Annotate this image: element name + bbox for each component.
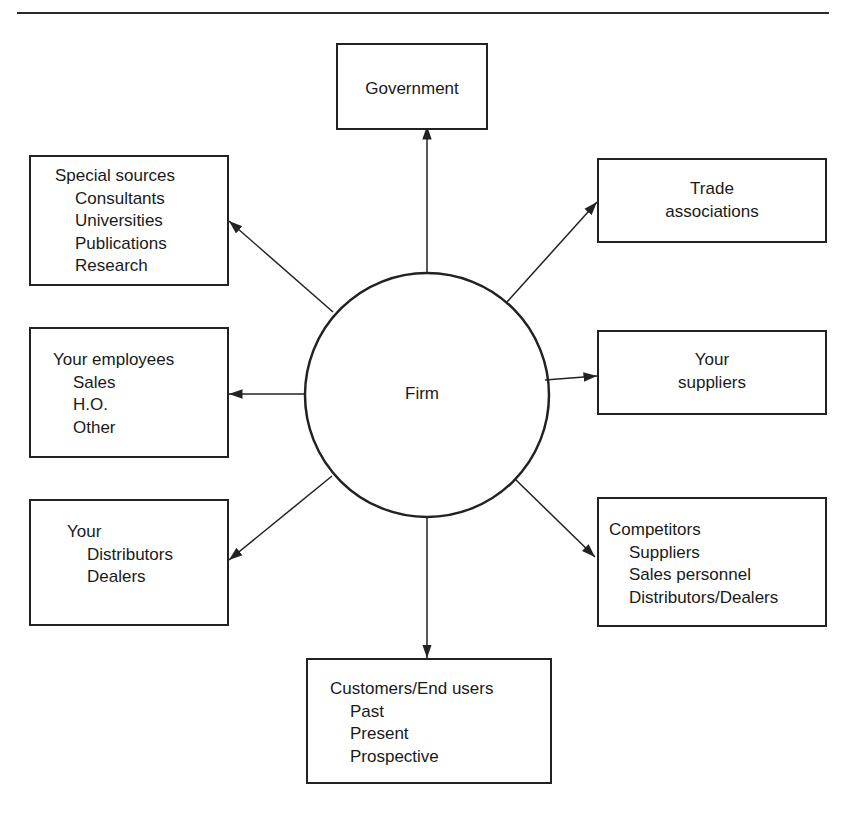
node-item: Sales personnel	[609, 564, 825, 587]
node-trade-associations: Trade associations	[597, 158, 827, 243]
node-item: Prospective	[330, 746, 550, 769]
node-title: Customers/End users	[330, 678, 550, 701]
node-special-sources: Special sources Consultants Universities…	[29, 155, 229, 286]
node-item: Consultants	[55, 188, 227, 211]
node-your-employees: Your employees Sales H.O. Other	[29, 327, 229, 458]
arrow-to-your-distributors	[229, 476, 332, 560]
node-item: Present	[330, 723, 550, 746]
arrow-to-special-sources	[229, 221, 333, 312]
node-item: Dealers	[67, 566, 227, 589]
node-item: Publications	[55, 233, 227, 256]
node-title: Trade	[599, 178, 825, 201]
node-item: Sales	[53, 372, 227, 395]
node-item: Other	[53, 417, 227, 440]
node-item: Distributors/Dealers	[609, 587, 825, 610]
node-item: Distributors	[67, 544, 227, 567]
node-title: Your	[67, 521, 227, 544]
node-title: Special sources	[55, 165, 227, 188]
node-competitors: Competitors Suppliers Sales personnel Di…	[597, 497, 827, 627]
node-government: Government	[336, 43, 488, 130]
node-customers: Customers/End users Past Present Prospec…	[306, 658, 552, 784]
node-title: Your	[599, 349, 825, 372]
arrow-to-competitors	[515, 479, 595, 557]
node-title: suppliers	[599, 372, 825, 395]
arrow-to-trade-associations	[507, 202, 597, 302]
node-title: Competitors	[609, 519, 825, 542]
node-item: Past	[330, 701, 550, 724]
node-item: H.O.	[53, 394, 227, 417]
node-your-distributors: Your Distributors Dealers	[29, 499, 229, 626]
node-title: associations	[599, 201, 825, 224]
node-title: Your employees	[53, 349, 227, 372]
arrow-to-your-suppliers	[545, 376, 597, 380]
node-item: Suppliers	[609, 542, 825, 565]
node-your-suppliers: Your suppliers	[597, 330, 827, 415]
node-item: Universities	[55, 210, 227, 233]
node-title: Government	[338, 78, 486, 101]
firm-label: Firm	[405, 384, 439, 404]
node-item: Research	[55, 255, 227, 278]
